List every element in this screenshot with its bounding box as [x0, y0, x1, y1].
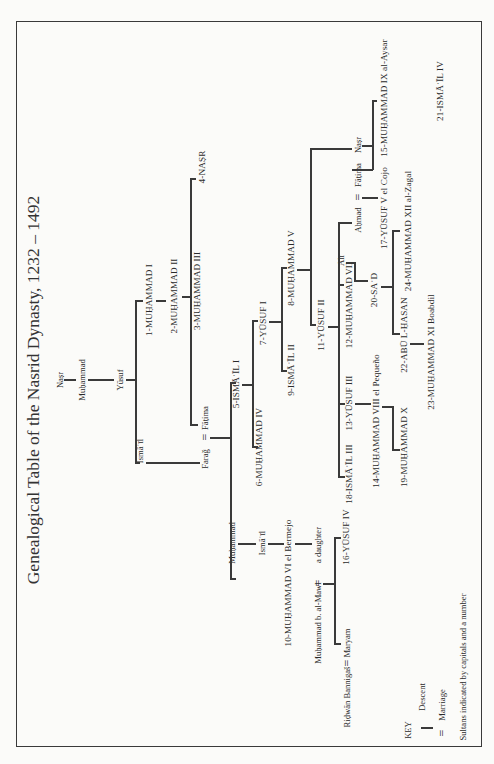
person-ridwan: Riḍwān Bannigaš [343, 667, 352, 728]
sultan-2: 2-MUḤAMMAD II [170, 258, 179, 333]
marriage-symbol: = [341, 660, 353, 667]
sultan-20: 20-SAʿD [370, 273, 379, 307]
sultan-7: 7-YŪSUF I [259, 301, 268, 345]
sultan-10: 10-MUḤAMMAD VI el Bermejo [284, 519, 293, 646]
sultan-17: 17-YŪSUF V el Cojo [380, 167, 389, 249]
sultan-18: 18-ISMĀʿĪL III [345, 444, 354, 504]
sultan-21: 21-ISMĀʿĪL IV [436, 61, 445, 121]
person-ahmad: Aḥmad [354, 207, 363, 232]
key-heading: KEY [404, 721, 413, 739]
person-nasr-b: Naṣr [354, 137, 363, 153]
chart-title: Genealogical Table of the Nasrid Dynasty… [25, 196, 43, 585]
sultan-24: 24-MUḤAMMAD XII al-Zagal [404, 171, 413, 291]
sultan-8: 8-MUḤAMMAD V [287, 230, 296, 305]
sultan-16: 16-YŪSUF IV [342, 509, 351, 564]
sultan-3: 3-MUḤAMMAD III [193, 252, 202, 330]
person-muhammad-mawl: Muḥammad b. al-Mawl [314, 582, 323, 663]
sultan-5: 5-ISMĀʿĪL I [232, 360, 241, 408]
sultan-13: 13-YŪSUF III [345, 375, 354, 430]
sultan-15: 15-MUḤAMMAD IX al-Aysar [380, 39, 389, 156]
person-yusuf-a: Yūsuf [116, 369, 125, 390]
sultan-11: 11-YŪSUF II [317, 299, 326, 351]
person-faraj: Faraǧ [201, 449, 210, 469]
person-a-daughter: a daughter [314, 527, 323, 563]
key-note: Sultans indicated by capitals and a numb… [459, 593, 468, 740]
sultan-19: 19-MUḤAMMAD X [400, 407, 409, 487]
key-marriage-label: Marriage [438, 689, 447, 721]
person-fatima-a: Fāṭima [201, 406, 210, 430]
person-ismail-b: Ismāʿīl [258, 531, 267, 555]
genealogy-page: Genealogical Table of the Nasrid Dynasty… [0, 0, 494, 764]
sultan-4: 4-NAṢR [198, 151, 207, 184]
key-descent-label: Descent [418, 683, 427, 711]
person-muhammad-b: Muḥammad [228, 522, 237, 564]
key-marriage-symbol: = [436, 730, 448, 737]
person-ismail-a: Ismāʿīl [136, 439, 145, 463]
sultan-1: 1-MUḤAMMAD I [145, 264, 154, 336]
person-maryam: Maryam [343, 628, 352, 657]
sultan-23: 23-MUḤAMMAD XI Boabdil [427, 294, 436, 410]
person-muhammad-a: Muḥammad [78, 359, 87, 401]
sultan-9: 9-ISMĀʿĪL II [287, 344, 296, 396]
person-nasr-root: Naṣr [56, 372, 65, 388]
person-fatima-b: Fāṭima [354, 163, 363, 187]
sultan-14: 14-MUḤAMMAD VIII el Pequeño [372, 354, 381, 487]
sultan-22: 22-ABŪ L-ḤASAN [400, 297, 409, 373]
